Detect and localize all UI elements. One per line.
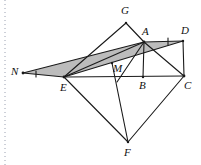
vertex-dot-A [143,41,146,44]
vertex-label-E: E [60,82,67,93]
vertex-dot-F [127,141,129,143]
geometry-figure: N E G M A D B C F [0,0,201,165]
segment-C-F [128,76,184,142]
vertex-dot-D [182,40,184,42]
vertex-label-M: M [113,63,122,74]
vertex-label-F: F [124,147,131,158]
vertex-label-C: C [184,80,191,91]
segment-M-F [112,63,128,142]
vertex-dot-G [125,22,127,24]
vertex-dot-B [142,76,144,78]
vertex-label-N: N [11,66,18,77]
vertex-label-B: B [139,80,146,91]
segment-E-F [64,77,128,142]
vertex-dots-group [22,22,186,143]
vertex-dot-E [63,76,66,79]
vertex-label-D: D [181,25,189,36]
vertex-label-A: A [142,26,149,37]
segments-group [23,23,184,142]
geometry-canvas [0,0,201,165]
vertex-dot-C [183,75,186,78]
vertex-dot-N [22,72,25,75]
segment-E-C [64,76,184,77]
vertex-label-G: G [121,5,129,16]
segment-D-C [183,41,184,76]
shaded-regions [23,41,183,77]
